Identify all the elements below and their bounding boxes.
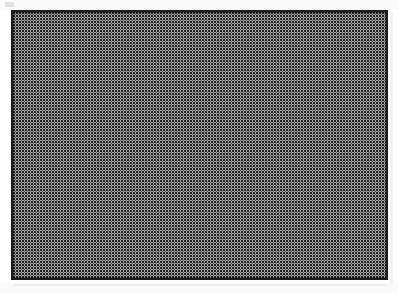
halftone-dot-pattern-fill	[13, 12, 386, 278]
figure-bordered-rectangle	[11, 10, 388, 280]
scan-smudge-artifact	[5, 2, 14, 7]
scanned-page	[0, 0, 398, 293]
scan-band-top	[0, 0, 398, 10]
figure-caption	[11, 283, 388, 291]
scan-shadow-right-edge	[390, 12, 393, 284]
